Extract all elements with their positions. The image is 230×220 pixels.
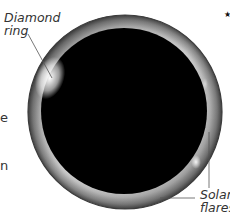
cutoff-text-fragment: n	[0, 158, 8, 173]
star-marker-icon: ★	[224, 10, 230, 19]
solar-flares-label-line2: flares	[200, 201, 230, 214]
solar-flare-glow	[202, 78, 208, 90]
solar-flare-glow	[191, 155, 201, 169]
eclipse-diagram: Diamond ring Solar flares e n ★	[0, 0, 230, 220]
diamond-ring-label: Diamond ring	[4, 11, 60, 37]
solar-flares-label: Solar flares	[200, 188, 230, 214]
diamond-ring-label-line2: ring	[4, 24, 60, 37]
moon-disk	[41, 28, 207, 194]
cutoff-text-fragment: e	[0, 110, 8, 125]
